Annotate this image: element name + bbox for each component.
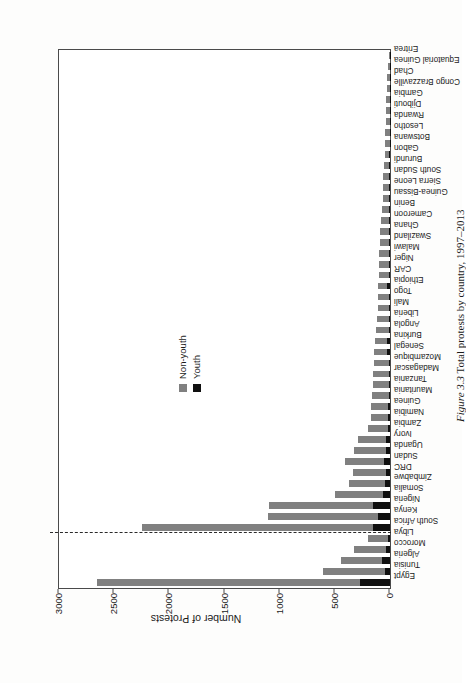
bar-angola [376, 327, 390, 334]
plot-area: Non-youth Youth [58, 49, 391, 589]
bar-segment-non-youth [373, 381, 389, 388]
bar-segment-non-youth [374, 349, 387, 356]
category-label: South Sudan [394, 165, 441, 174]
category-label: DRC [394, 462, 412, 471]
bar-segment-youth [389, 371, 390, 378]
bar-segment-non-youth [379, 272, 389, 279]
bar-segment-non-youth [354, 546, 386, 553]
bar-segment-youth [389, 327, 390, 334]
legend-item-non-youth: Non-youth [177, 335, 188, 392]
bar-segment-non-youth [378, 305, 389, 312]
legend-swatch-icon-youth [193, 384, 201, 392]
bar-sudan [345, 458, 390, 465]
category-label: Guinea [394, 396, 420, 405]
category-label: Benin [394, 198, 415, 207]
bar-segment-youth [388, 403, 390, 410]
bar-segment-non-youth [368, 535, 388, 542]
bar-segment-non-youth [323, 568, 385, 575]
category-label: Angola [394, 319, 420, 328]
y-axis-tick-mark [223, 589, 224, 593]
bar-ghana [380, 228, 390, 235]
y-axis-tick-label: 1500 [218, 593, 229, 614]
bar-segment-youth [373, 524, 390, 531]
bar-segment-youth [382, 557, 390, 564]
bar-segment-youth [384, 458, 390, 465]
bar-segment-youth [389, 392, 390, 399]
bar-mali [378, 305, 390, 312]
category-label: Algeria [394, 549, 420, 558]
bar-segment-youth [389, 294, 390, 301]
category-label: Tunisia [394, 560, 420, 569]
bar-liberia [377, 316, 390, 323]
bar-segment-youth [383, 491, 390, 498]
bar-segment-youth [388, 535, 390, 542]
category-label: Mauritania [394, 385, 432, 394]
bar-botswana [385, 140, 390, 147]
bar-segment-youth [389, 184, 390, 191]
category-label: South Africa [394, 516, 438, 525]
legend: Non-youth Youth [177, 335, 205, 392]
bar-segment-youth [389, 151, 390, 158]
category-label: Tanzania [394, 374, 427, 383]
bar-ethiopia [378, 283, 390, 290]
category-label: Congo Brazzaville [394, 77, 460, 86]
bar-segment-non-youth [375, 338, 388, 345]
bar-south-africa [142, 524, 390, 531]
bar-segment-youth [389, 360, 390, 367]
region-divider-dashed-line [50, 532, 391, 533]
bar-segment-youth [389, 239, 390, 246]
bar-segment-non-youth [378, 283, 387, 290]
bar-segment-non-youth [358, 436, 386, 443]
category-label: Burundi [394, 154, 422, 163]
category-label: Lesotho [394, 121, 423, 130]
bar-ivory [358, 436, 390, 443]
bar-guinea [371, 403, 390, 410]
bar-segment-non-youth [142, 524, 374, 531]
bar-segment-non-youth [268, 513, 377, 520]
bar-segment-youth [389, 316, 390, 323]
bar-segment-youth [389, 272, 390, 279]
category-label: Djibouti [394, 99, 421, 108]
bar-segment-non-youth [374, 360, 389, 367]
category-label: Ghana [394, 220, 419, 229]
category-label: Burkina [394, 330, 422, 339]
category-label: Senegal [394, 341, 424, 350]
bar-equatorial-guinea [388, 63, 390, 70]
bar-segment-non-youth [380, 239, 389, 246]
y-axis-tick-label: 500 [328, 593, 339, 609]
category-label: Togo [394, 286, 412, 295]
bar-segment-youth [386, 436, 390, 443]
bar-zimbabwe [349, 480, 390, 487]
figure-caption: Figure 3.3 Total protests by country, 19… [454, 402, 466, 422]
bar-congo-brazzaville [387, 85, 390, 92]
bar-segment-youth [389, 162, 390, 169]
bar-segment-youth [389, 381, 390, 388]
bar-malawi [379, 250, 390, 257]
bar-burkina [375, 338, 390, 345]
bar-segment-non-youth [379, 261, 389, 268]
bar-burundi [384, 162, 390, 169]
bar-senegal [374, 349, 390, 356]
category-label: Guinea-Bissau [394, 187, 448, 196]
y-axis-tick-mark [58, 589, 59, 593]
bar-eritrea [389, 52, 390, 59]
bar-segment-youth [389, 261, 390, 268]
bar-segment-youth [389, 173, 390, 180]
y-axis-tick-label: 2000 [163, 593, 174, 614]
category-label: Uganda [394, 440, 423, 449]
y-axis-tick-mark [113, 589, 114, 593]
bar-kenya [268, 513, 390, 520]
bar-segment-non-youth [373, 371, 388, 378]
category-label: Ivory [394, 429, 412, 438]
bar-zambia [368, 425, 390, 432]
y-axis-tick-mark [333, 589, 334, 593]
bar-chad [387, 74, 390, 81]
bar-segment-non-youth [377, 316, 389, 323]
bar-segment-youth [388, 414, 390, 421]
bar-segment-youth [388, 425, 390, 432]
bar-segment-non-youth [368, 425, 388, 432]
category-label: Gabon [394, 143, 419, 152]
category-label: Niger [394, 253, 414, 262]
bar-segment-non-youth [354, 447, 386, 454]
bar-segment-youth [385, 568, 390, 575]
